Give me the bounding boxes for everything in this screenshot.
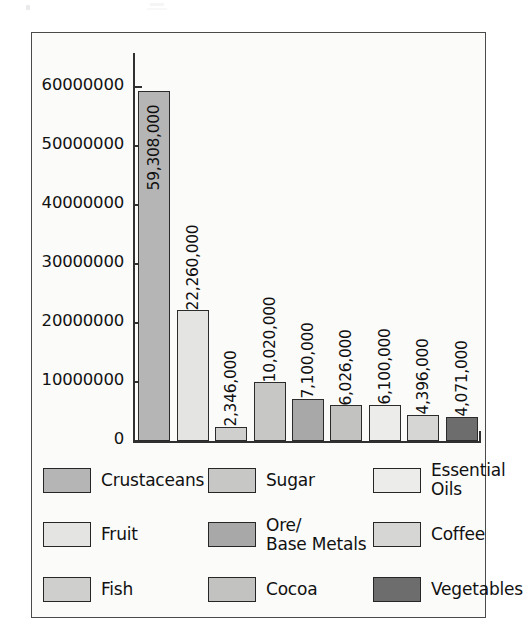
bar-value-label: 4,071,000 xyxy=(453,341,470,417)
legend-item: Fish xyxy=(43,562,208,617)
legend-item: Crustaceans xyxy=(43,453,208,508)
bar: 4,071,000 xyxy=(446,417,478,441)
bar: 2,346,000 xyxy=(215,427,247,441)
legend-item: Sugar xyxy=(208,453,373,508)
legend-swatch xyxy=(208,522,256,547)
legend-swatch xyxy=(43,468,91,493)
legend-swatch xyxy=(373,522,421,547)
legend-swatch xyxy=(373,577,421,602)
legend-label: Sugar xyxy=(266,471,315,490)
legend-label: Cocoa xyxy=(266,580,317,599)
scan-artifact xyxy=(26,5,30,10)
legend-item: Fruit xyxy=(43,508,208,563)
legend-swatch xyxy=(208,468,256,493)
bar-value-label: 6,026,000 xyxy=(338,329,355,405)
scan-artifact xyxy=(150,3,164,6)
bar-value-label: 7,100,000 xyxy=(300,323,317,399)
legend-label: Fruit xyxy=(101,525,138,544)
bar: 10,020,000 xyxy=(254,382,286,441)
bar-value-label: 6,100,000 xyxy=(376,329,393,405)
bar-value-label: 59,308,000 xyxy=(146,105,163,191)
legend-item: Coffee xyxy=(373,508,498,563)
legend-swatch xyxy=(208,577,256,602)
legend-item: Ore/ Base Metals xyxy=(208,508,373,563)
legend-label: Ore/ Base Metals xyxy=(266,516,366,554)
bar-value-label: 10,020,000 xyxy=(261,297,278,383)
legend-label: Essential Oils xyxy=(431,461,505,499)
chart-figure-frame: 0100000002000000030000000400000005000000… xyxy=(31,32,486,618)
legend-swatch xyxy=(373,468,421,493)
bar-value-label: 4,396,000 xyxy=(415,339,432,415)
bar: 6,026,000 xyxy=(330,405,362,441)
bars-layer: 59,308,00022,260,0002,346,00010,020,0007… xyxy=(32,33,487,443)
scan-artifact xyxy=(147,8,167,10)
plot-area: 0100000002000000030000000400000005000000… xyxy=(32,33,487,437)
legend-label: Crustaceans xyxy=(101,471,204,490)
bar: 6,100,000 xyxy=(369,405,401,441)
bar: 7,100,000 xyxy=(292,399,324,441)
bar: 59,308,000 xyxy=(138,91,170,441)
legend-item: Essential Oils xyxy=(373,453,498,508)
bar-value-label: 2,346,000 xyxy=(223,351,240,427)
bar-value-label: 22,260,000 xyxy=(184,224,201,310)
legend-label: Fish xyxy=(101,580,133,599)
bar: 4,396,000 xyxy=(407,415,439,441)
bar: 22,260,000 xyxy=(177,310,209,441)
legend-label: Vegetables xyxy=(431,580,523,599)
legend-item: Cocoa xyxy=(208,562,373,617)
chart-legend: CrustaceansSugarEssential OilsFruitOre/ … xyxy=(32,445,487,617)
legend-label: Coffee xyxy=(431,525,485,544)
legend-swatch xyxy=(43,577,91,602)
legend-item: Vegetables xyxy=(373,562,498,617)
legend-swatch xyxy=(43,522,91,547)
